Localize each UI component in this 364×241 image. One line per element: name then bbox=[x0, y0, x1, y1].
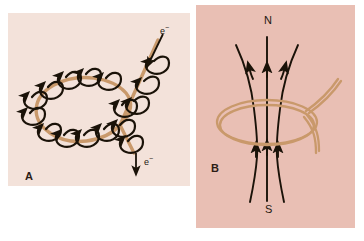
panel-b-diagram bbox=[196, 5, 355, 228]
north-pole-label: N bbox=[264, 14, 272, 26]
electron-out-label: e− bbox=[144, 155, 153, 167]
south-pole-label: S bbox=[265, 203, 272, 215]
panel-b-label: B bbox=[211, 162, 219, 174]
coil-lead-upper bbox=[306, 79, 338, 111]
electron-in-label: e− bbox=[160, 24, 169, 36]
panel-b: N S B bbox=[196, 5, 355, 228]
field-line-inner-left bbox=[236, 45, 257, 202]
panel-a-label: A bbox=[25, 170, 33, 182]
panel-a: e− e− A bbox=[8, 13, 190, 186]
figure-container: e− e− A bbox=[0, 0, 364, 241]
magnetic-field-lines-dipole bbox=[236, 37, 298, 202]
panel-a-diagram bbox=[8, 13, 190, 186]
coil-lead-upper-b bbox=[309, 81, 341, 113]
field-line-inner-right bbox=[277, 45, 298, 202]
